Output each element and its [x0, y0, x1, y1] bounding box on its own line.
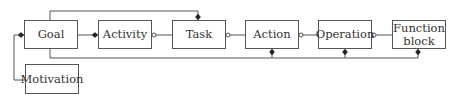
filled-diamond-icon	[343, 49, 348, 55]
node-action: Action	[245, 20, 299, 49]
node-goal: Goal	[24, 20, 78, 49]
filled-diamond-icon	[270, 49, 275, 55]
node-label: Activity	[103, 28, 147, 41]
node-label: Motivation	[21, 73, 84, 86]
hollow-circle-icon	[226, 33, 230, 37]
hollow-circle-icon	[152, 33, 156, 37]
node-activity: Activity	[98, 20, 152, 49]
node-function-block: Function block	[392, 20, 446, 49]
node-operation: Operation	[318, 20, 372, 49]
node-label: Task	[186, 28, 213, 41]
filled-diamond-icon	[416, 49, 421, 55]
node-label: Function block	[393, 22, 445, 48]
node-task: Task	[172, 20, 226, 49]
node-label: Goal	[38, 28, 65, 41]
node-label: Operation	[316, 28, 375, 41]
hollow-circle-icon	[299, 33, 303, 37]
node-label: Action	[253, 28, 290, 41]
node-motivation: Motivation	[25, 64, 79, 94]
edge-goal-bottom-bus	[50, 49, 418, 58]
edge-goal-task-top	[50, 11, 198, 20]
